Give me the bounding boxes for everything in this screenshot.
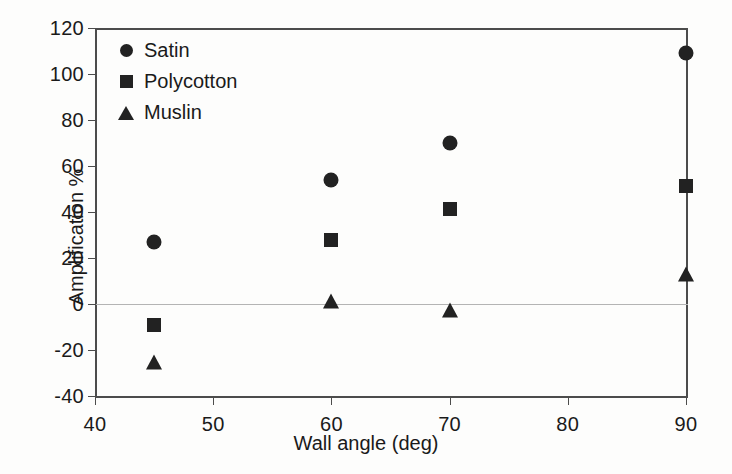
y-tick-label: 120 <box>50 17 84 40</box>
x-tick-mark <box>568 397 569 405</box>
plot-area: 120100806040200-20-40 405060708090 Satin… <box>95 28 688 398</box>
y-tick-label: 80 <box>61 109 84 132</box>
legend-label: Polycotton <box>144 70 237 93</box>
y-tick-mark <box>88 120 96 121</box>
data-point-satin <box>147 234 162 249</box>
legend-label: Satin <box>144 39 190 62</box>
legend-item-muslin: Muslin <box>115 97 237 128</box>
y-tick-label: -40 <box>54 385 84 408</box>
x-tick-mark <box>686 397 687 405</box>
x-tick-mark <box>450 397 451 405</box>
y-tick-label: 20 <box>61 247 84 270</box>
x-tick-mark <box>213 397 214 405</box>
circle-glyph <box>120 44 133 57</box>
axis-frame-right <box>686 28 688 398</box>
triangle-glyph <box>118 106 134 120</box>
x-tick-label: 60 <box>320 413 343 436</box>
data-point-polycotton <box>443 202 457 216</box>
y-tick-mark <box>88 28 96 29</box>
y-tick-label: 60 <box>61 155 84 178</box>
x-tick-label: 70 <box>438 413 461 436</box>
zero-reference-line <box>95 304 688 305</box>
legend-item-polycotton: Polycotton <box>115 66 237 97</box>
y-tick-label: 0 <box>73 293 84 316</box>
x-tick-label: 90 <box>675 413 698 436</box>
data-point-muslin <box>442 302 458 317</box>
x-tick-label: 50 <box>202 413 225 436</box>
data-point-muslin <box>678 267 694 282</box>
y-tick-mark <box>88 74 96 75</box>
square-glyph <box>120 75 133 88</box>
x-axis-title: Wall angle (deg) <box>0 432 732 455</box>
triangle-marker-icon <box>115 106 137 120</box>
y-axis-title: Amplification % <box>65 169 88 306</box>
y-tick-mark <box>88 212 96 213</box>
x-tick-label: 80 <box>556 413 579 436</box>
y-tick-label: 100 <box>50 63 84 86</box>
data-point-satin <box>442 136 457 151</box>
y-tick-mark <box>88 166 96 167</box>
chart-figure: Amplification % Wall angle (deg) 1201008… <box>0 0 732 474</box>
chart-legend: SatinPolycottonMuslin <box>115 35 237 128</box>
x-tick-mark <box>95 397 96 405</box>
y-tick-label: -20 <box>54 339 84 362</box>
data-point-satin <box>679 46 694 61</box>
data-point-polycotton <box>147 318 161 332</box>
x-tick-label: 40 <box>84 413 107 436</box>
y-tick-label: 40 <box>61 201 84 224</box>
circle-marker-icon <box>115 44 137 57</box>
data-point-muslin <box>323 293 339 308</box>
y-tick-mark <box>88 258 96 259</box>
y-tick-mark <box>88 304 96 305</box>
data-point-muslin <box>146 354 162 369</box>
axis-frame-top <box>95 28 688 30</box>
legend-label: Muslin <box>144 101 202 124</box>
data-point-satin <box>324 172 339 187</box>
data-point-polycotton <box>679 179 693 193</box>
y-tick-mark <box>88 350 96 351</box>
x-axis-line <box>95 396 688 398</box>
x-tick-mark <box>331 397 332 405</box>
legend-item-satin: Satin <box>115 35 237 66</box>
square-marker-icon <box>115 75 137 88</box>
data-point-polycotton <box>324 233 338 247</box>
y-axis-line <box>95 28 97 398</box>
